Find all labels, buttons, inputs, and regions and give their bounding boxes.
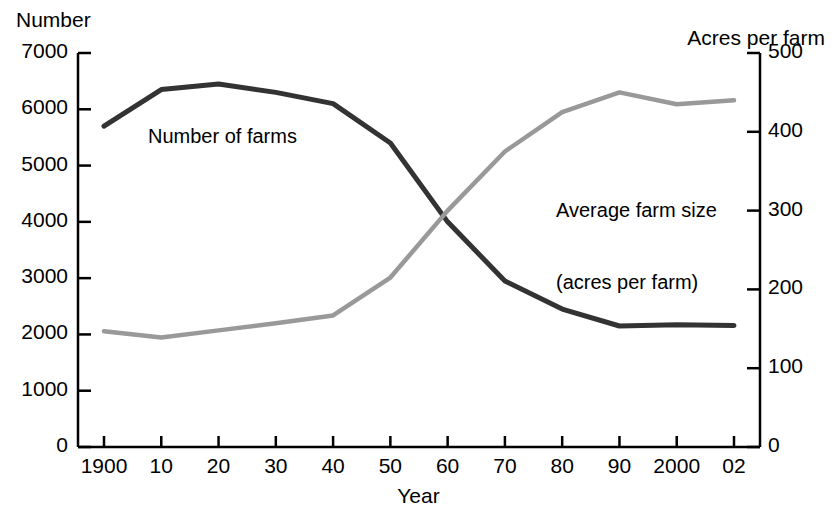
plot-area	[0, 0, 837, 519]
axis-lines	[78, 53, 760, 447]
series-line-number-of-farms	[104, 84, 734, 326]
series-line-average-farm-size	[104, 92, 734, 337]
series-polylines	[104, 84, 734, 338]
axis-tick-marks	[78, 53, 760, 447]
chart-figure: Number Acres per farm Year Number of far…	[0, 0, 837, 519]
